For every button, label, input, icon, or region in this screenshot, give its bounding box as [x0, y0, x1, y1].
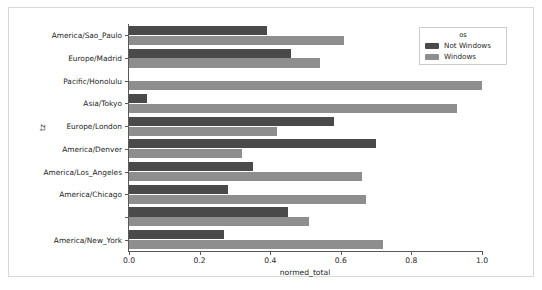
y-axis-label: Europe/Madrid [68, 54, 122, 63]
legend-swatch-windows [425, 54, 439, 60]
legend: os Not Windows Windows [419, 27, 507, 65]
x-axis-tick [129, 251, 130, 255]
bar-group: America/Denver [129, 138, 482, 161]
y-axis-tick [125, 58, 129, 59]
y-axis-label: America/New_York [54, 235, 122, 244]
bar-not-windows [129, 185, 228, 194]
bar-group: Pacific/Honolulu [129, 69, 482, 92]
y-axis-title: tz [38, 124, 47, 131]
y-axis-tick [125, 194, 129, 195]
bar-windows [129, 240, 383, 249]
x-axis-tick [341, 251, 342, 255]
bar-windows [129, 217, 309, 226]
x-axis-tick [482, 251, 483, 255]
legend-label-windows: Windows [444, 53, 476, 61]
x-axis-tick-label: 0.8 [405, 256, 417, 265]
bar-group: Europe/London [129, 115, 482, 138]
bar-windows [129, 149, 242, 158]
y-axis-tick [125, 217, 129, 218]
figure-canvas: America/Sao_PauloEurope/MadridPacific/Ho… [0, 0, 542, 290]
bar-windows [129, 58, 320, 67]
bar-group: America/Los_Angeles [129, 160, 482, 183]
bar-not-windows [129, 162, 253, 171]
bar-windows [129, 195, 366, 204]
y-axis-tick [125, 35, 129, 36]
bar-not-windows [129, 139, 376, 148]
y-axis-tick [125, 103, 129, 104]
y-axis-tick [125, 172, 129, 173]
bar-not-windows [129, 230, 224, 239]
y-axis-label: Asia/Tokyo [83, 99, 122, 108]
bar-group: America/New_York [129, 228, 482, 251]
legend-swatch-not-windows [425, 43, 439, 49]
legend-label-not-windows: Not Windows [444, 42, 491, 50]
bar-windows [129, 104, 457, 113]
bar-not-windows [129, 207, 288, 216]
y-axis-tick [125, 126, 129, 127]
y-axis-label: America/Chicago [59, 190, 122, 199]
bar-windows [129, 36, 344, 45]
y-axis-label: America/Los_Angeles [44, 167, 122, 176]
legend-title: os [425, 31, 501, 39]
x-axis-tick-label: 0.0 [123, 256, 135, 265]
y-axis-tick [125, 149, 129, 150]
x-axis-tick-label: 0.4 [264, 256, 276, 265]
bar-windows [129, 127, 277, 136]
bar-not-windows [129, 117, 334, 126]
bar-windows [129, 172, 362, 181]
x-axis-tick-label: 0.2 [194, 256, 206, 265]
y-axis-label: Pacific/Honolulu [63, 76, 122, 85]
y-axis-tick [125, 240, 129, 241]
x-axis-title: normed_total [128, 268, 482, 277]
bar-not-windows [129, 49, 291, 58]
bar-not-windows [129, 26, 267, 35]
legend-item-windows: Windows [425, 52, 501, 62]
y-axis-label: America/Sao_Paulo [52, 31, 122, 40]
x-axis-tick-label: 0.6 [335, 256, 347, 265]
legend-item-not-windows: Not Windows [425, 41, 501, 51]
bar-group: America/Chicago [129, 183, 482, 206]
x-axis-tick [200, 251, 201, 255]
bar-not-windows [129, 94, 147, 103]
bar-group: Asia/Tokyo [129, 92, 482, 115]
x-axis-tick [270, 251, 271, 255]
bar-group [129, 206, 482, 229]
x-axis-tick [411, 251, 412, 255]
x-axis-tick-label: 1.0 [476, 256, 488, 265]
bar-windows [129, 81, 482, 90]
y-axis-label: Europe/London [66, 122, 122, 131]
y-axis-tick [125, 81, 129, 82]
y-axis-label: America/Denver [62, 144, 122, 153]
